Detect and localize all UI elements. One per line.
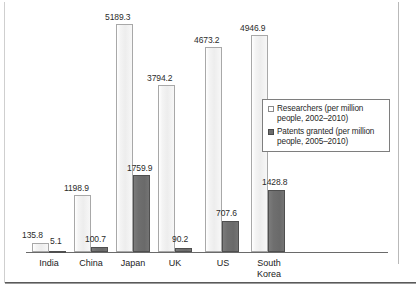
bar-researchers-uk [158, 85, 175, 252]
bar-researchers-us [205, 47, 222, 252]
legend-item-researchers: Researchers (per millionpeople, 2002–201… [268, 104, 385, 124]
bar-patents-japan [133, 175, 150, 252]
value-label-patents-china: 100.7 [85, 234, 106, 244]
value-label-patents-india: 5.1 [50, 236, 62, 246]
legend-label-patents-line1: Patents granted (per million [277, 127, 374, 136]
bar-patents-south-korea [268, 190, 285, 252]
legend-item-patents: Patents granted (per millionpeople, 2005… [268, 127, 385, 147]
bar-researchers-japan [116, 24, 133, 252]
chart-legend: Researchers (per millionpeople, 2002–201… [262, 99, 390, 152]
bar-patents-uk [175, 248, 192, 252]
legend-label-researchers-line2: people, 2002–2010) [277, 114, 348, 123]
value-label-researchers-india: 135.8 [22, 230, 43, 240]
x-axis-baseline [26, 252, 388, 253]
value-label-researchers-us: 4673.2 [194, 35, 219, 45]
value-label-patents-japan: 1759.9 [127, 163, 152, 173]
legend-label-patents: Patents granted (per millionpeople, 2005… [277, 127, 374, 147]
bar-researchers-india [32, 243, 49, 252]
bar-patents-us [222, 221, 239, 252]
legend-label-researchers-line1: Researchers (per million [277, 104, 363, 113]
x-axis-label-uk: UK [150, 258, 200, 269]
x-axis-label-south-korea: South Korea [244, 258, 294, 280]
value-label-researchers-china: 1198.9 [64, 183, 89, 193]
legend-label-researchers: Researchers (per millionpeople, 2002–201… [277, 104, 363, 124]
bar-patents-china [91, 247, 108, 252]
figure-container: 135.8 5.1 1198.9 100.7 5189.3 1759.9 379… [0, 0, 417, 293]
value-label-researchers-south-korea: 4946.9 [240, 23, 265, 33]
value-label-patents-us: 707.6 [216, 208, 237, 218]
legend-swatch-patents-icon [268, 129, 274, 135]
bar-chart-plot-area: 135.8 5.1 1198.9 100.7 5189.3 1759.9 379… [0, 0, 417, 293]
value-label-researchers-uk: 3794.2 [147, 73, 172, 83]
legend-label-patents-line2: people, 2005–2010) [277, 137, 348, 146]
legend-swatch-researchers-icon [268, 106, 274, 112]
value-label-researchers-japan: 5189.3 [105, 12, 130, 22]
value-label-patents-uk: 90.2 [172, 234, 188, 244]
bar-patents-india [49, 251, 66, 253]
value-label-patents-south-korea: 1428.8 [262, 177, 287, 187]
x-axis-label-us: US [198, 258, 248, 269]
